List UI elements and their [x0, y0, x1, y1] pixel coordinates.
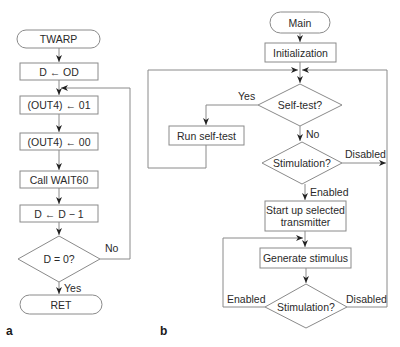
process-box-call-wait60: Call WAIT60: [20, 171, 98, 188]
arrow-connector-yes: [206, 105, 258, 125]
panel-a-twarp-flowchart: TWARP D ← OD (OUT4) ← 01 (OUT4) ← 00 Cal…: [6, 30, 130, 338]
no-branch-label: No: [306, 128, 320, 140]
process-box-decrement-d: D ← D − 1: [20, 205, 98, 222]
process-box-run-self-test: Run self-test: [169, 126, 244, 145]
decision-label: Stimulation?: [277, 301, 335, 313]
start-terminal-twarp: TWARP: [17, 30, 100, 48]
terminal-label: Main: [289, 17, 312, 29]
process-label: Generate stimulus: [263, 252, 348, 264]
process-label: D ← D − 1: [34, 208, 83, 220]
loop-back-selftest-connector: [148, 70, 298, 168]
run-self-test-return-line: [148, 145, 206, 168]
flowchart-figure: TWARP D ← OD (OUT4) ← 01 (OUT4) ← 00 Cal…: [0, 0, 400, 347]
process-label: (OUT4) ← 01: [27, 99, 90, 111]
disabled-branch-label: Disabled: [346, 293, 387, 305]
no-branch-label: No: [105, 242, 119, 254]
decision-stimulation-2: Stimulation?: [265, 284, 347, 328]
disabled-branch-label: Disabled: [345, 148, 386, 160]
process-label-line2: transmitter: [281, 216, 331, 228]
decision-label: D = 0?: [43, 253, 74, 265]
process-box-init-d: D ← OD: [20, 63, 98, 80]
terminal-label: TWARP: [40, 33, 78, 45]
terminal-label: RET: [51, 299, 73, 311]
process-box-out4-01: (OUT4) ← 01: [20, 96, 98, 114]
start-terminal-main: Main: [270, 12, 330, 33]
panel-label-b: b: [160, 324, 167, 338]
decision-label: Stimulation?: [273, 157, 331, 169]
decision-self-test: Self-test?: [258, 84, 342, 126]
process-label: Run self-test: [177, 130, 236, 142]
process-label: Call WAIT60: [30, 174, 89, 186]
process-box-start-transmitter: Start up selected transmitter: [265, 201, 346, 231]
process-box-generate-stimulus: Generate stimulus: [260, 248, 351, 268]
enabled-branch-label: Enabled: [310, 186, 349, 198]
process-label: (OUT4) ← 00: [27, 136, 90, 148]
panel-label-a: a: [6, 324, 13, 338]
process-label-line1: Start up selected: [266, 204, 345, 216]
yes-branch-label: Yes: [64, 282, 81, 294]
end-terminal-ret: RET: [20, 295, 102, 314]
panel-b-main-flowchart: Main Initialization Self-test? Yes Run s…: [148, 12, 387, 338]
yes-branch-label: Yes: [238, 90, 255, 102]
enabled-branch-label: Enabled: [227, 293, 266, 305]
process-label: D ← OD: [39, 66, 79, 78]
process-label: Initialization: [273, 47, 328, 59]
decision-stimulation-1: Stimulation?: [262, 142, 342, 184]
process-box-initialization: Initialization: [265, 43, 336, 62]
decision-d-equals-zero: D = 0?: [18, 236, 100, 282]
decision-label: Self-test?: [278, 99, 323, 111]
process-box-out4-00: (OUT4) ← 00: [20, 133, 98, 150]
